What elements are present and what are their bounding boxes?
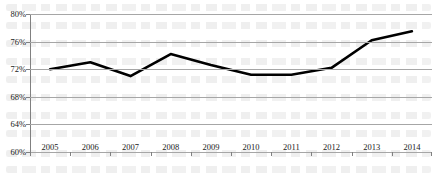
x-axis-label: 2006 (82, 142, 99, 152)
gridline-y (30, 14, 432, 15)
x-axis-label: 2008 (162, 142, 179, 152)
y-axis-tick (26, 69, 30, 70)
x-axis-label: 2014 (403, 142, 420, 152)
x-axis-label: 2013 (363, 142, 380, 152)
x-axis-tick (231, 152, 232, 156)
gridline-y (30, 69, 432, 70)
gridline-y (30, 124, 432, 125)
x-axis-tick (352, 152, 353, 156)
series-line (30, 14, 432, 152)
x-axis-label: 2011 (283, 142, 300, 152)
y-axis-tick (26, 97, 30, 98)
x-axis-tick (311, 152, 312, 156)
y-axis-label: 64% (0, 120, 26, 129)
y-axis-label: 76% (0, 37, 26, 46)
y-axis-label: 60% (0, 148, 26, 157)
gridline-y (30, 97, 432, 98)
x-axis-tick (30, 152, 31, 156)
x-axis-tick (191, 152, 192, 156)
x-axis-tick (271, 152, 272, 156)
y-axis-tick (26, 14, 30, 15)
x-axis-label: 2009 (202, 142, 219, 152)
x-axis-tick (392, 152, 393, 156)
x-axis-label: 2010 (243, 142, 260, 152)
line-chart: 80%76%72%68%64%60%2005200620072008200920… (0, 0, 437, 177)
y-axis-tick (26, 42, 30, 43)
gridline-y (30, 42, 432, 43)
x-axis-label: 2007 (122, 142, 139, 152)
x-axis-tick (431, 152, 432, 156)
x-axis-label: 2012 (323, 142, 340, 152)
x-axis-tick (70, 152, 71, 156)
y-axis-tick (26, 124, 30, 125)
y-axis-label: 80% (0, 10, 26, 19)
x-axis-label: 2005 (42, 142, 59, 152)
x-axis-tick (110, 152, 111, 156)
plot-area (30, 14, 432, 152)
x-axis-tick (151, 152, 152, 156)
y-axis-label: 68% (0, 93, 26, 102)
y-axis-label: 72% (0, 65, 26, 74)
